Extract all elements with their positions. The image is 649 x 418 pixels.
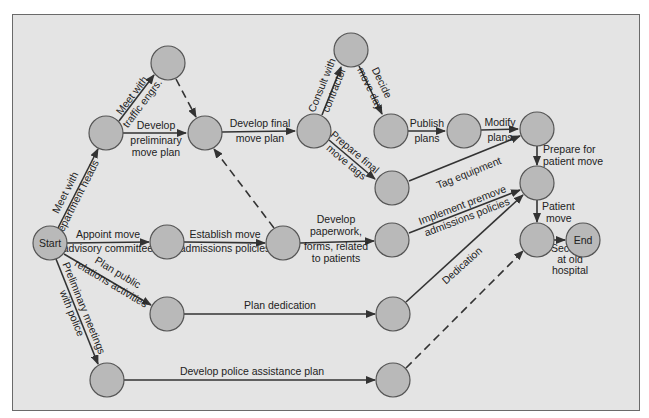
edge-modify (481, 129, 518, 130)
pert-network-diagram: Meet with department heads Meet with tra… (0, 0, 649, 418)
label-final-2: move plan (236, 132, 285, 144)
label-paperwork-3: forms, related (304, 240, 368, 252)
node-decide (374, 114, 408, 148)
label-paperwork-4: to patients (312, 252, 360, 264)
node-consult (334, 33, 368, 67)
node-modify (520, 112, 554, 146)
node-final-plan (297, 114, 331, 148)
label-appoint-1: Appoint move (76, 228, 140, 240)
label-security-3: hospital (552, 264, 588, 276)
label-prelim-3: move plan (132, 146, 181, 158)
label-prelim-2: preliminary (130, 134, 182, 146)
node-patient (520, 223, 554, 257)
node-dept-heads (89, 116, 123, 150)
node-traffic-engrs (151, 46, 185, 80)
label-plan-dedication: Plan dedication (244, 299, 316, 311)
label-paperwork-1: Develop (317, 213, 356, 225)
label-final-1: Develop final (230, 117, 291, 129)
edge-labels: Meet with department heads Meet with tra… (40, 56, 603, 377)
node-prelim-plan (188, 116, 222, 150)
node-police-plan (376, 363, 410, 397)
node-dedication (376, 297, 410, 331)
edge-dummy-establish (214, 149, 274, 228)
node-establish (266, 226, 300, 260)
label-modify-1: Modify (485, 116, 517, 128)
label-patient-2: move (546, 212, 572, 224)
label-prepare-1: Prepare for (543, 143, 596, 155)
label-prepare-2: patient move (543, 155, 603, 167)
label-establish-2: admissions policies (180, 242, 270, 254)
label-publish-2: plans (414, 132, 439, 144)
label-appoint-2: advisory committee (63, 242, 154, 254)
edge-dummy-traffic (176, 79, 196, 117)
label-publish-1: Publish (410, 117, 445, 129)
label-modify-2: plans (487, 131, 512, 143)
node-prepare (520, 166, 554, 200)
node-public-relations (150, 297, 184, 331)
label-patient-1: Patient (542, 200, 575, 212)
node-paperwork (375, 223, 409, 257)
node-tags (375, 171, 409, 205)
node-end: End (566, 223, 600, 257)
node-publish (447, 114, 481, 148)
label-paperwork-2: paperwork, (310, 225, 362, 237)
node-end-label: End (574, 234, 593, 246)
node-start: Start (33, 226, 67, 260)
label-establish-1: Establish move (189, 228, 260, 240)
label-police-plan: Develop police assistance plan (180, 365, 324, 377)
label-prelim-1: Develop (137, 119, 176, 131)
node-appoint (150, 225, 184, 259)
node-police (90, 363, 124, 397)
node-start-label: Start (39, 237, 61, 249)
